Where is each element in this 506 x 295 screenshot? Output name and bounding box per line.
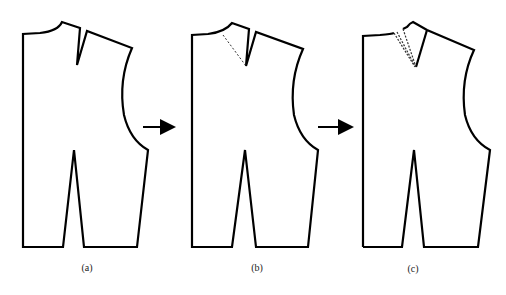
bodice-pattern-c: [363, 22, 490, 247]
caption-c: (c): [393, 263, 433, 274]
dart-manipulation-diagram: [0, 0, 506, 295]
bodice-pattern-a: [23, 22, 148, 247]
dashed-guideline-b: [223, 35, 246, 66]
caption-a: (a): [67, 262, 107, 273]
dashed-dart-lines-c: [394, 29, 416, 67]
bodice-pattern-b: [192, 23, 318, 247]
caption-b: (b): [237, 262, 277, 273]
